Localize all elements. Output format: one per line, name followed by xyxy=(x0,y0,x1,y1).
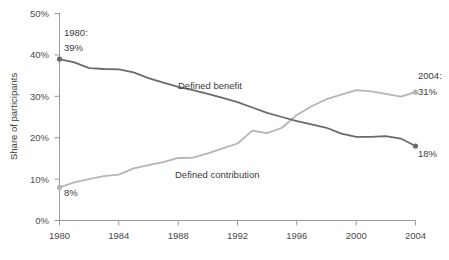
annotation-1980-dc-value: 8% xyxy=(64,187,78,198)
x-tick-label-2004: 2004 xyxy=(405,230,426,241)
y-tick-label-0: 0% xyxy=(35,215,49,226)
annotation-1980-value: 39% xyxy=(64,42,84,53)
y-tick-label-10: 10% xyxy=(30,174,50,185)
y-tick-label-50: 50% xyxy=(30,8,50,19)
y-tick-label-20: 20% xyxy=(30,132,50,143)
series-label-defined-benefit: Defined benefit xyxy=(178,80,242,91)
x-tick-label-1988: 1988 xyxy=(168,230,189,241)
series-line-defined-benefit xyxy=(60,59,416,146)
series-label-defined-contribution: Defined contribution xyxy=(175,169,260,180)
line-chart: 50% 40% 30% 20% 10% 0% 1980 1984 1988 19… xyxy=(0,0,449,260)
annotation-2004-db-value: 18% xyxy=(418,148,438,159)
y-tick-label-40: 40% xyxy=(30,49,50,60)
y-tick-label-30: 30% xyxy=(30,91,50,102)
x-tick-label-1984: 1984 xyxy=(108,230,129,241)
x-tick-label-1996: 1996 xyxy=(286,230,307,241)
x-axis-ticks xyxy=(60,221,416,226)
marker-defined-contribution-1980 xyxy=(57,185,62,190)
annotation-2004-year: 2004: xyxy=(418,70,442,81)
annotation-1980-year: 1980: xyxy=(64,27,88,38)
y-axis-title: Share of participants xyxy=(8,73,19,160)
chart-container: 50% 40% 30% 20% 10% 0% 1980 1984 1988 19… xyxy=(0,0,449,260)
annotation-2004-dc-value: 31% xyxy=(418,86,438,97)
x-tick-label-2000: 2000 xyxy=(346,230,367,241)
x-tick-label-1992: 1992 xyxy=(227,230,248,241)
marker-defined-benefit-1980 xyxy=(57,56,62,61)
x-tick-label-1980: 1980 xyxy=(49,230,70,241)
